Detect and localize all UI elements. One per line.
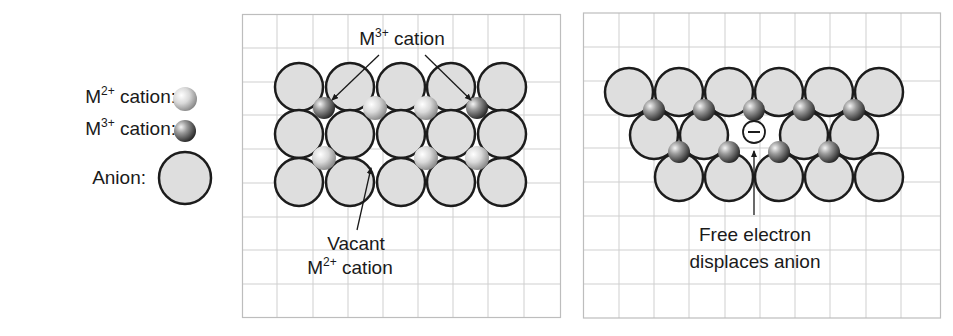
m2-cation-icon [312, 146, 336, 170]
vacant-label-line1: Vacant [327, 233, 385, 254]
m3-cation-icon [818, 141, 840, 163]
m3-cation-icon [693, 99, 715, 121]
m3-cation-label: M3+ cation [359, 26, 445, 49]
m3-cation-icon [743, 99, 765, 121]
left-panel-vacancy: M3+ cation Vacant M2+ cation [243, 15, 561, 318]
m3-cation-icon [718, 141, 740, 163]
m2-cation-icon [465, 146, 489, 170]
legend-label-m2-cation: M2+ cation: [85, 84, 176, 107]
legend: M2+ cation: M3+ cation: Anion: [85, 84, 211, 204]
legend-label-m3-cation: M3+ cation: [85, 116, 176, 139]
m3-cation-icon [668, 141, 690, 163]
m2-cation-legend-icon [173, 87, 197, 111]
m3-cation-icon [313, 97, 335, 119]
m3-cation-icon [768, 141, 790, 163]
m3-cation-icon [843, 99, 865, 121]
m3-cation-icon [793, 99, 815, 121]
vacant-label-line2: M2+ cation [307, 255, 393, 278]
m2-cation-icon [414, 146, 438, 170]
m3-cation-legend-icon [174, 120, 196, 142]
free-electron-label-line2: displaces anion [690, 251, 821, 272]
m2-cation-icon [414, 96, 438, 120]
m3-cation-icon [643, 99, 665, 121]
left-anion-lattice [275, 63, 526, 206]
anion-icon [855, 153, 903, 201]
free-electron-icon [743, 121, 765, 143]
legend-label-anion: Anion: [92, 167, 146, 188]
m2-cation-icon [363, 96, 387, 120]
right-panel-free-electron: Free electron displaces anion [584, 13, 941, 318]
anion-legend-icon [159, 152, 211, 204]
m3-cation-icon [466, 97, 488, 119]
defect-structure-diagram: M2+ cation: M3+ cation: Anion: M3+ catio… [0, 0, 953, 336]
free-electron-label-line1: Free electron [699, 224, 811, 245]
